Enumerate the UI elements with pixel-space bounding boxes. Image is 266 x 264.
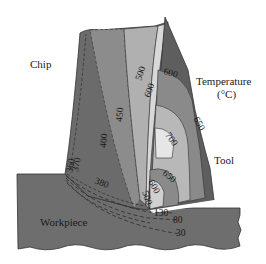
- temperature-unit-label: (°C): [217, 88, 236, 101]
- isotherm-label-30: 30: [176, 228, 186, 238]
- chip-label: Chip: [30, 58, 52, 70]
- temperature-label: Temperature: [196, 75, 252, 87]
- isotherm-label-80: 80: [173, 215, 183, 225]
- cutting-temperature-diagram: Chip Temperature (°C) Tool Workpiece 360…: [0, 0, 266, 264]
- tool-label: Tool: [214, 154, 234, 166]
- workpiece-label: Workpiece: [40, 216, 87, 228]
- isotherm-label-450: 450: [114, 107, 125, 122]
- isotherm-label-400: 400: [98, 133, 109, 148]
- isotherm-label-130: 130: [154, 208, 169, 218]
